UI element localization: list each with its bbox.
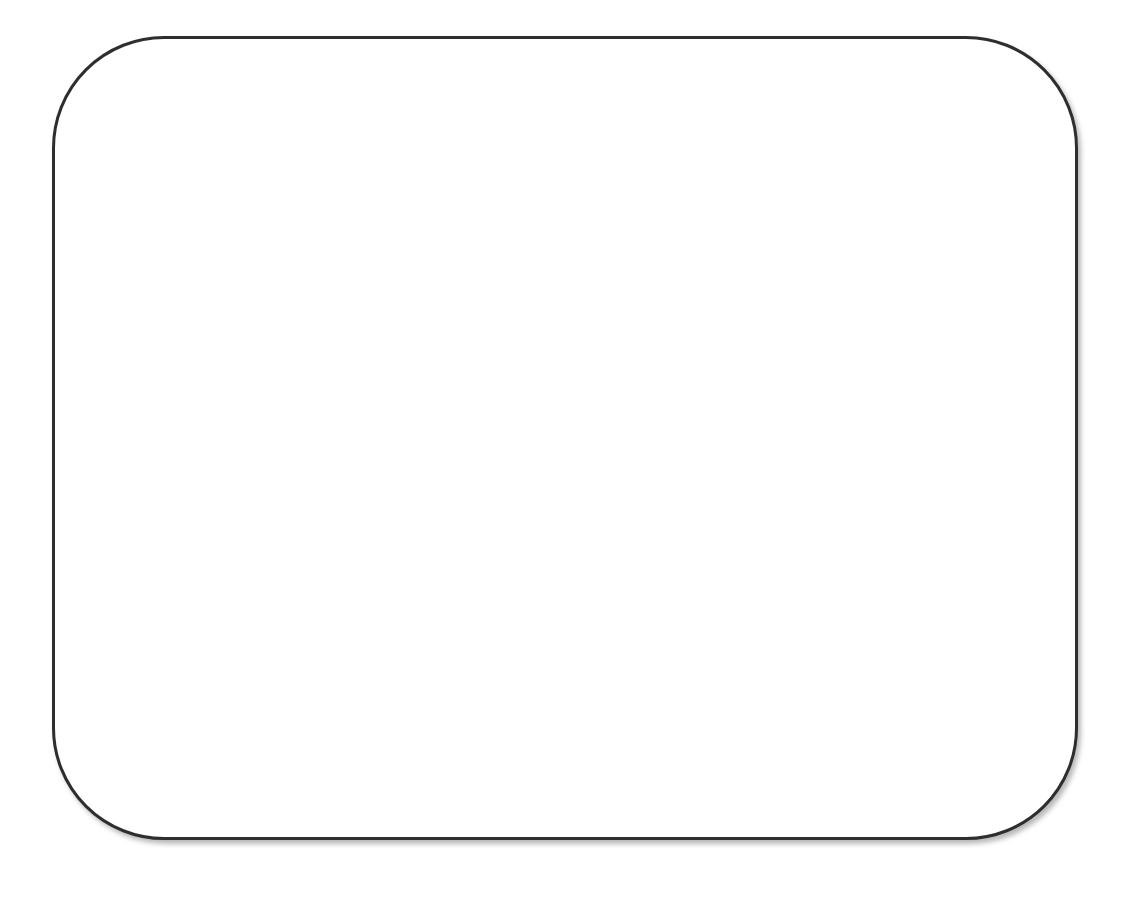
rounded-rectangle-shape xyxy=(52,36,1078,840)
diagram-canvas xyxy=(0,0,1127,902)
